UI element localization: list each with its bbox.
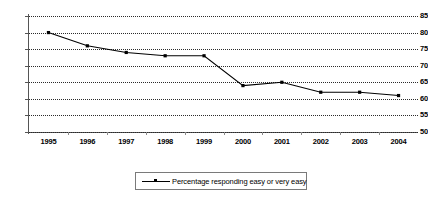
legend-line-marker-icon bbox=[142, 175, 170, 187]
x-axis-tick-mark bbox=[340, 132, 341, 135]
x-axis-tick-mark bbox=[379, 132, 380, 135]
x-axis-tick-mark bbox=[185, 132, 186, 135]
data-point-marker bbox=[164, 54, 167, 57]
y-axis-tick-mark bbox=[25, 66, 29, 67]
x-axis-tick-mark bbox=[301, 132, 302, 135]
y-axis-tick-mark bbox=[25, 99, 29, 100]
y-axis-tick-label: 85 bbox=[404, 12, 428, 20]
x-axis-tick-label: 2002 bbox=[301, 137, 341, 146]
y-axis-tick-label: 80 bbox=[404, 29, 428, 37]
y-axis-tick-label: 50 bbox=[404, 128, 428, 136]
series-line bbox=[48, 33, 398, 96]
x-axis-tick-mark bbox=[146, 132, 147, 135]
x-axis-tick-label: 2000 bbox=[223, 137, 263, 146]
y-axis-tick-mark bbox=[25, 16, 29, 17]
data-point-marker bbox=[280, 81, 283, 84]
legend-entry-label: Percentage responding easy or very easy bbox=[172, 177, 307, 186]
x-axis-tick-label: 1999 bbox=[184, 137, 224, 146]
data-point-marker bbox=[241, 84, 244, 87]
line-chart: 5055606570758085 19951996199719981999200… bbox=[0, 0, 428, 204]
plot-area bbox=[29, 16, 418, 132]
y-axis-tick-mark bbox=[25, 82, 29, 83]
y-axis-tick-mark bbox=[25, 33, 29, 34]
legend-square-marker-icon bbox=[154, 179, 157, 182]
x-axis-tick-label: 1995 bbox=[28, 137, 68, 146]
y-axis-tick-label: 75 bbox=[404, 45, 428, 53]
y-axis-tick-mark bbox=[25, 115, 29, 116]
data-point-marker bbox=[202, 54, 205, 57]
data-point-marker bbox=[319, 91, 322, 94]
x-axis-tick-label: 1997 bbox=[106, 137, 146, 146]
x-axis-tick-label: 2001 bbox=[262, 137, 302, 146]
x-axis-tick-label: 1996 bbox=[67, 137, 107, 146]
data-point-marker bbox=[397, 94, 400, 97]
y-axis-tick-label: 55 bbox=[404, 111, 428, 119]
series-percentage-responding-easy-or-very-easy bbox=[29, 16, 418, 132]
x-axis-tick-mark bbox=[262, 132, 263, 135]
data-point-marker bbox=[47, 31, 50, 34]
series-markers bbox=[47, 31, 400, 97]
y-axis-tick-label: 60 bbox=[404, 95, 428, 103]
data-point-marker bbox=[86, 44, 89, 47]
x-axis-tick-label: 2004 bbox=[379, 137, 419, 146]
y-axis-tick-mark bbox=[25, 132, 29, 133]
data-point-marker bbox=[358, 91, 361, 94]
x-axis-tick-mark bbox=[68, 132, 69, 135]
chart-legend: Percentage responding easy or very easy bbox=[135, 172, 307, 190]
x-axis-tick-label: 1998 bbox=[145, 137, 185, 146]
y-axis-tick-label: 70 bbox=[404, 62, 428, 70]
data-point-marker bbox=[125, 51, 128, 54]
y-axis-tick-label: 65 bbox=[404, 78, 428, 86]
x-axis-tick-mark bbox=[107, 132, 108, 135]
y-axis-tick-mark bbox=[25, 49, 29, 50]
x-axis-tick-mark bbox=[224, 132, 225, 135]
x-axis-tick-label: 2003 bbox=[340, 137, 380, 146]
